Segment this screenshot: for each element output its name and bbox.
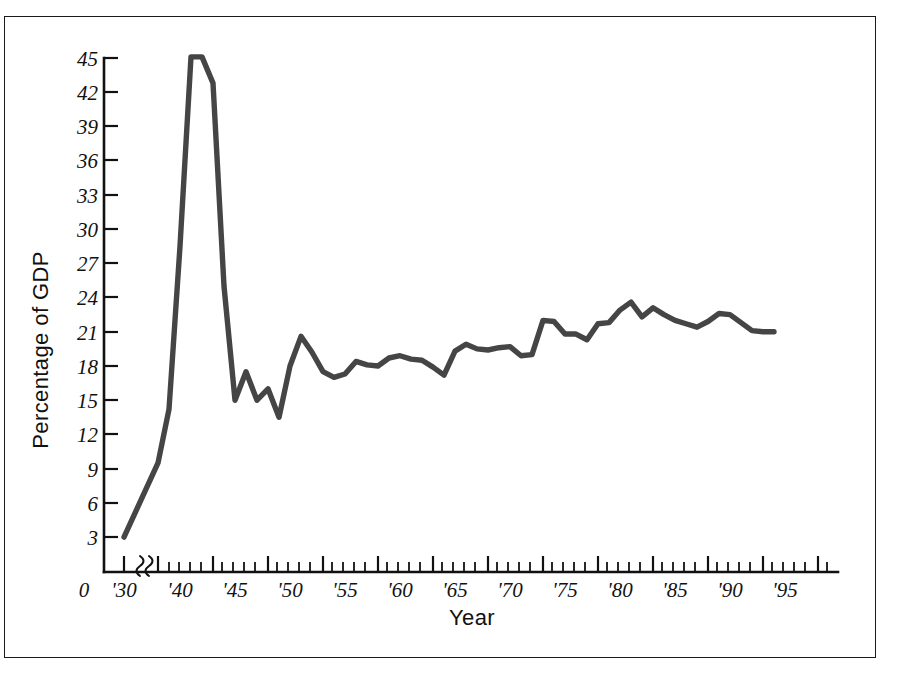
y-axis-title: Percentage of GDP	[28, 251, 53, 449]
y-tick-42: 42	[77, 81, 99, 105]
x-tick-65: '65	[442, 578, 468, 602]
y-tick-labels: 45 42 39 36 33 30 27 24 21 18 15 12 9 6 …	[76, 47, 100, 550]
y-tick-18: 18	[77, 355, 99, 379]
y-tick-marks	[104, 58, 118, 537]
y-tick-15: 15	[77, 389, 98, 413]
chart-svg: Percentage of GDP Year 45 42	[0, 0, 906, 681]
x-axis-title: Year	[449, 605, 495, 630]
x-tick-45: '45	[222, 578, 248, 602]
x-tick-30: '30	[111, 578, 137, 602]
data-series-line	[124, 57, 774, 537]
x-tick-40: '40	[167, 578, 193, 602]
y-tick-21: 21	[77, 321, 98, 345]
x-tick-60: '60	[387, 578, 413, 602]
x-tick-95: '95	[772, 578, 798, 602]
x-tick-90: '90	[717, 578, 743, 602]
x-tick-85: '85	[662, 578, 688, 602]
y-tick-36: 36	[76, 149, 99, 173]
x-tick-labels: 0 '30 '40 '45 '50 '55 '60 '65 '70 '75 '8…	[79, 578, 798, 602]
chart-area: Percentage of GDP Year 45 42	[0, 0, 906, 681]
x-tick-0: 0	[79, 578, 90, 602]
y-tick-3: 3	[87, 526, 99, 550]
x-tick-70: '70	[497, 578, 523, 602]
y-tick-24: 24	[77, 286, 99, 310]
x-tick-75: '75	[552, 578, 578, 602]
y-tick-45: 45	[77, 47, 98, 71]
y-tick-27: 27	[77, 252, 100, 276]
y-tick-33: 33	[76, 184, 98, 208]
x-tick-80: '80	[607, 578, 633, 602]
x-major-tick-marks	[124, 556, 818, 572]
y-tick-9: 9	[88, 458, 99, 482]
y-tick-30: 30	[76, 218, 99, 242]
x-tick-55: '55	[332, 578, 358, 602]
y-tick-12: 12	[77, 423, 99, 447]
y-tick-6: 6	[88, 492, 99, 516]
x-tick-50: '50	[277, 578, 303, 602]
y-tick-39: 39	[76, 115, 99, 139]
